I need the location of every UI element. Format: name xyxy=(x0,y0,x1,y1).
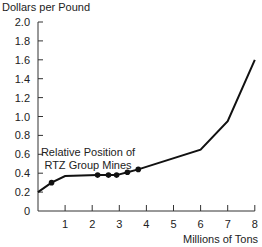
x-tick-label: 6 xyxy=(198,218,204,230)
y-tick-label: 0 xyxy=(24,205,30,217)
mine-point xyxy=(114,172,120,178)
annotation-line-2: RTZ Group Mines xyxy=(44,159,132,171)
x-tick-label: 7 xyxy=(225,218,231,230)
cost-curve-line xyxy=(38,60,255,192)
mine-point xyxy=(135,167,141,173)
x-tick-label: 2 xyxy=(89,218,95,230)
x-tick-label: 4 xyxy=(143,218,149,230)
y-tick-label: 0.8 xyxy=(15,129,30,141)
x-axis-title: Millions of Tons xyxy=(183,233,258,245)
y-tick-label: 1.8 xyxy=(15,35,30,47)
x-axis: 12345678 xyxy=(38,205,258,230)
annotation-line-1: Relative Position of xyxy=(41,146,136,158)
y-tick-label: 1.4 xyxy=(15,73,30,85)
mine-point xyxy=(106,172,112,178)
x-tick-label: 5 xyxy=(170,218,176,230)
y-tick-label: 0.4 xyxy=(15,167,30,179)
y-axis: 00.20.40.60.81.01.21.41.61.82.0 xyxy=(15,16,43,217)
mine-point xyxy=(95,172,101,178)
chart: Dollars per Pound Millions of Tons 00.20… xyxy=(0,0,262,247)
y-tick-label: 1.6 xyxy=(15,54,30,66)
y-tick-label: 0.6 xyxy=(15,148,30,160)
y-tick-label: 1.2 xyxy=(15,92,30,104)
x-tick-label: 1 xyxy=(62,218,68,230)
mine-point xyxy=(49,180,55,186)
y-tick-label: 2.0 xyxy=(15,16,30,28)
y-tick-label: 1.0 xyxy=(15,111,30,123)
y-tick-label: 0.2 xyxy=(15,186,30,198)
x-tick-label: 3 xyxy=(116,218,122,230)
y-axis-title: Dollars per Pound xyxy=(2,1,90,13)
x-tick-label: 8 xyxy=(252,218,258,230)
